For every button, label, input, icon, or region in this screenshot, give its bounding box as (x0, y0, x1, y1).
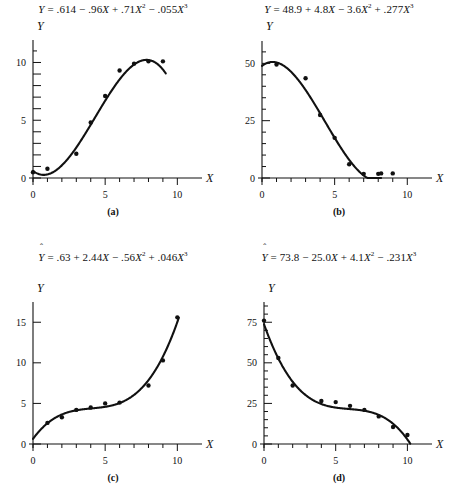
svg-text:0: 0 (262, 455, 267, 466)
svg-text:5: 5 (21, 398, 26, 409)
svg-text:X: X (435, 171, 444, 185)
svg-text:0: 0 (21, 173, 26, 184)
panel-d: Ŷ = 73.8 − 25.0X + 4.1X2 − .231X3 05100… (226, 248, 452, 496)
svg-text:0: 0 (260, 189, 265, 200)
svg-text:Y: Y (37, 19, 45, 33)
svg-text:5: 5 (103, 455, 108, 466)
panel-c-plot: 0510051015XY (0, 248, 226, 496)
svg-text:50: 50 (245, 58, 255, 69)
svg-text:0: 0 (31, 455, 36, 466)
svg-text:5: 5 (332, 189, 337, 200)
svg-text:10: 10 (172, 189, 182, 200)
svg-text:0: 0 (252, 439, 257, 450)
svg-text:15: 15 (16, 317, 26, 328)
svg-text:25: 25 (245, 115, 255, 126)
svg-text:Y: Y (268, 281, 276, 295)
panel-d-plot: 05100255075XY (226, 248, 452, 496)
figure-cubic-regression-panels: Ŷ = .614 − .96X + .71X2 − .055X3 051005… (0, 0, 452, 496)
panel-c: Ŷ = .63 + 2.44X − .56X2 + .046X3 051005… (0, 248, 226, 496)
svg-text:X: X (205, 171, 214, 185)
svg-text:0: 0 (21, 439, 26, 450)
svg-text:0: 0 (250, 173, 255, 184)
svg-text:75: 75 (247, 317, 257, 328)
panel-b-label: (b) (226, 206, 452, 217)
svg-text:X: X (435, 437, 444, 451)
svg-text:5: 5 (21, 115, 26, 126)
svg-text:X: X (205, 437, 214, 451)
svg-text:5: 5 (333, 455, 338, 466)
svg-text:25: 25 (247, 398, 257, 409)
svg-text:Y: Y (37, 281, 45, 295)
svg-text:10: 10 (402, 189, 412, 200)
panel-c-label: (c) (0, 472, 226, 483)
svg-text:10: 10 (16, 357, 26, 368)
svg-text:5: 5 (103, 189, 108, 200)
svg-text:Y: Y (266, 19, 274, 33)
panel-d-label: (d) (226, 472, 452, 483)
svg-text:0: 0 (31, 189, 36, 200)
svg-text:50: 50 (247, 357, 257, 368)
panel-a: Ŷ = .614 − .96X + .71X2 − .055X3 051005… (0, 0, 226, 248)
svg-text:10: 10 (16, 57, 26, 68)
svg-text:10: 10 (172, 455, 182, 466)
panel-b: Ŷ = 48.9 + 4.8X − 3.6X2 + .277X3 051002… (226, 0, 452, 248)
panel-a-label: (a) (0, 206, 226, 217)
svg-text:10: 10 (402, 455, 412, 466)
